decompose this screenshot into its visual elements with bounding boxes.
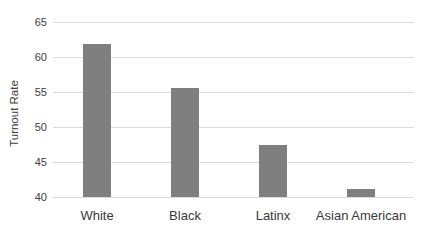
category-label: Asian American bbox=[316, 208, 406, 224]
x-axis-category-labels: WhiteBlackLatinxAsian American bbox=[0, 0, 423, 234]
category-label: Latinx bbox=[256, 208, 291, 224]
category-label: Black bbox=[169, 208, 201, 224]
turnout-rate-bar-chart: Turnout Rate 656055504540 WhiteBlackLati… bbox=[0, 0, 423, 234]
category-label: White bbox=[80, 208, 113, 224]
